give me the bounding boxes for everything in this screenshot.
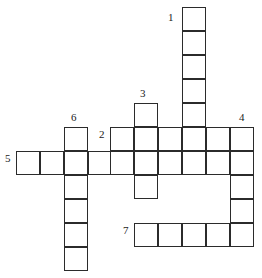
cell-r5c9[interactable] (230, 127, 254, 151)
cell-r2c7[interactable] (182, 55, 206, 79)
cell-r4c7[interactable] (182, 103, 206, 127)
cell-r5c2[interactable] (64, 127, 88, 151)
cell-r6c9[interactable] (230, 151, 254, 175)
cell-r4c5[interactable] (134, 103, 158, 127)
clue-number-7-across: 7 (123, 225, 129, 236)
cell-r10c2[interactable] (64, 247, 88, 271)
cell-r6c1[interactable] (40, 151, 64, 175)
cell-r9c2[interactable] (64, 223, 88, 247)
cell-r5c4[interactable] (110, 127, 134, 151)
clue-number-2-across: 2 (99, 129, 105, 140)
cell-r5c6[interactable] (158, 127, 182, 151)
cell-r7c5[interactable] (134, 175, 158, 199)
cell-r6c3[interactable] (88, 151, 112, 175)
cell-r9c9[interactable] (230, 223, 254, 247)
cell-r9c5[interactable] (134, 223, 158, 247)
crossword-puzzle: 1234567 (0, 0, 262, 278)
cell-r6c0[interactable] (16, 151, 40, 175)
clue-number-1-down: 1 (168, 12, 174, 23)
cell-r7c2[interactable] (64, 175, 88, 199)
cell-r6c6[interactable] (158, 151, 182, 175)
cell-r6c2[interactable] (64, 151, 88, 175)
cell-r6c4[interactable] (110, 151, 134, 175)
clue-number-4-down: 4 (239, 112, 245, 123)
cell-r5c7[interactable] (182, 127, 206, 151)
clue-number-5-across: 5 (5, 153, 11, 164)
cell-r1c7[interactable] (182, 31, 206, 55)
cell-r9c7[interactable] (182, 223, 206, 247)
cell-r3c7[interactable] (182, 79, 206, 103)
cell-r6c7[interactable] (182, 151, 206, 175)
cell-r6c8[interactable] (206, 151, 230, 175)
cell-r5c8[interactable] (206, 127, 230, 151)
cell-r9c8[interactable] (206, 223, 230, 247)
cell-r6c5[interactable] (134, 151, 158, 175)
cell-r8c2[interactable] (64, 199, 88, 223)
cell-r5c5[interactable] (134, 127, 158, 151)
crossword-grid: 1234567 (0, 0, 262, 278)
clue-number-3-down: 3 (140, 88, 146, 99)
cell-r0c7[interactable] (182, 7, 206, 31)
clue-number-6-down: 6 (71, 112, 77, 123)
cell-r8c9[interactable] (230, 199, 254, 223)
cell-r7c9[interactable] (230, 175, 254, 199)
cell-r9c6[interactable] (158, 223, 182, 247)
